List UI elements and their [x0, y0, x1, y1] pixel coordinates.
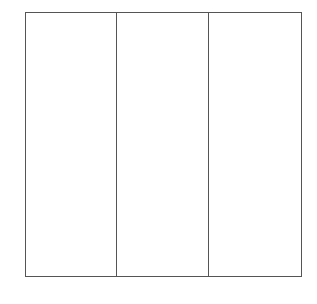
- column-divider-2: [208, 13, 209, 276]
- three-column-box: [25, 12, 302, 277]
- column-divider-1: [116, 13, 117, 276]
